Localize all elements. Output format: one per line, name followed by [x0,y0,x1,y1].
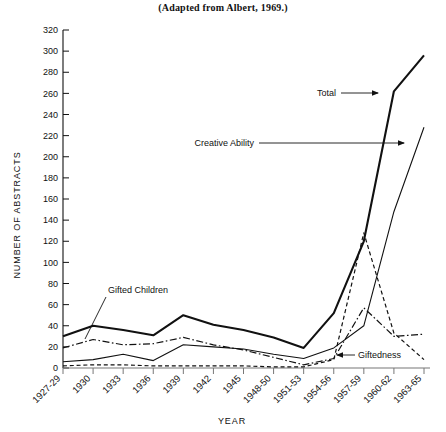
annotation-total-label: Total [317,88,336,98]
y-tick-label-220: 220 [43,131,58,141]
annotation-giftedness: Giftedness [336,350,402,360]
y-tick-label-120: 120 [43,236,58,246]
data-series-group [63,55,424,367]
figure-container: (Adapted from Albert, 1969.) 02040608010… [0,0,446,432]
y-tick-label-320: 320 [43,25,58,35]
x-tick-label-1945: 1945 [220,373,243,396]
annotation-total: Total [317,88,379,98]
y-tick-label-60: 60 [48,300,58,310]
y-tick-label-180: 180 [43,173,58,183]
y-tick-label-160: 160 [43,194,58,204]
x-tick-label-1963-65: 1963-65 [391,373,423,405]
y-axis-ticks: 0204060801001201401601802002202402602803… [43,25,69,373]
y-tick-label-100: 100 [43,258,58,268]
annotation-creative-ability-label: Creative Ability [194,138,254,148]
y-tick-label-20: 20 [48,342,58,352]
y-tick-label-300: 300 [43,46,58,56]
y-tick-label-260: 260 [43,89,58,99]
x-tick-label-1936: 1936 [130,373,153,396]
y-tick-label-40: 40 [48,321,58,331]
x-tick-label-1942: 1942 [190,373,213,396]
line-chart: 0204060801001201401601802002202402602803… [0,0,446,432]
x-tick-label-1930: 1930 [70,373,93,396]
x-tick-label-1957-59: 1957-59 [331,373,363,405]
y-tick-label-200: 200 [43,152,58,162]
x-tick-label-1927-29: 1927-29 [30,373,62,405]
annotation-gifted-children-label: Gifted Children [108,285,168,295]
y-tick-label-0: 0 [53,363,58,373]
x-tick-label-1933: 1933 [100,373,123,396]
y-tick-label-280: 280 [43,67,58,77]
series-line-creative-ability [63,127,424,362]
y-tick-label-240: 240 [43,110,58,120]
x-tick-label-1954-56: 1954-56 [301,373,333,405]
x-axis-title: YEAR [218,416,246,426]
y-axis-title: NUMBER OF ABSTRACTS [12,151,22,278]
y-tick-label-140: 140 [43,215,58,225]
annotation-giftedness-label: Giftedness [358,350,402,360]
y-tick-label-80: 80 [48,279,58,289]
x-tick-label-1948-50: 1948-50 [241,373,273,405]
x-tick-label-1939: 1939 [160,373,183,396]
x-tick-label-1951-53: 1951-53 [271,373,303,405]
annotation-creative-ability: Creative Ability [194,138,405,148]
x-axis-ticks: 1927-291930193319361939194219451948-5019… [30,368,424,405]
x-tick-label-1960-62: 1960-62 [361,373,393,405]
series-line-giftedness [63,233,424,367]
